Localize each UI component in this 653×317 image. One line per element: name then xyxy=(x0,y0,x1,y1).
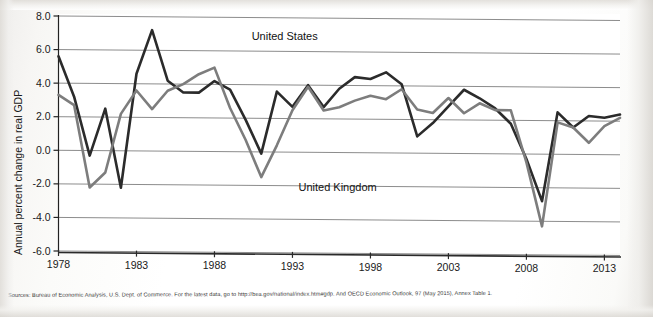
y-axis-title: Annual percent change in real GDP xyxy=(12,90,24,255)
y-tick-label: 2.0 xyxy=(36,110,51,122)
source-note: Sources: Bureau of Economic Analysis, U.… xyxy=(8,288,648,299)
series-annotation-united-kingdom: United Kingdom xyxy=(298,181,376,193)
y-axis-tick-labels: 8.06.04.02.00.0-2.0-4.0-6.0 xyxy=(32,10,50,257)
series-annotation-united-states: United States xyxy=(252,30,319,42)
y-tick-label: 8.0 xyxy=(36,10,51,22)
x-tick-label: 1983 xyxy=(125,259,149,271)
y-axis-tick-marks xyxy=(54,16,59,251)
y-tick-label: -2.0 xyxy=(32,177,50,189)
figure-panel: 8.06.04.02.00.0-2.0-4.0-6.0 197819831988… xyxy=(0,0,653,317)
x-tick-label: 1993 xyxy=(281,260,305,272)
page-shading-bottom xyxy=(0,305,653,317)
x-tick-label: 2008 xyxy=(515,262,539,274)
y-tick-label: -6.0 xyxy=(32,245,50,257)
y-tick-label: -4.0 xyxy=(32,211,50,223)
y-tick-label: 6.0 xyxy=(36,43,51,55)
x-tick-label: 2013 xyxy=(593,262,617,274)
x-tick-label: 2003 xyxy=(437,261,461,273)
y-tick-label: 4.0 xyxy=(36,77,51,89)
x-tick-label: 1998 xyxy=(359,261,383,273)
gdp-growth-line-chart: 8.06.04.02.00.0-2.0-4.0-6.0 197819831988… xyxy=(0,0,653,290)
y-tick-label: 0.0 xyxy=(36,144,51,156)
x-tick-label: 1978 xyxy=(47,258,71,270)
x-tick-label: 1988 xyxy=(203,259,227,271)
x-axis-tick-labels: 19781983198819931998200320082013 xyxy=(47,258,616,274)
plot-area-background xyxy=(58,14,620,253)
